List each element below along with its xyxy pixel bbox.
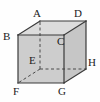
vertex-label-E: E [29, 55, 36, 66]
vertex-label-C: C [57, 36, 64, 47]
vertex-label-B: B [3, 31, 10, 42]
cube-figure: A B C D E F G H [0, 0, 100, 102]
vertex-label-A: A [33, 8, 41, 19]
vertex-label-G: G [58, 86, 66, 97]
cube-faces [18, 21, 86, 83]
vertex-label-F: F [13, 86, 19, 97]
vertex-label-H: H [88, 57, 96, 68]
vertex-label-D: D [74, 8, 82, 19]
